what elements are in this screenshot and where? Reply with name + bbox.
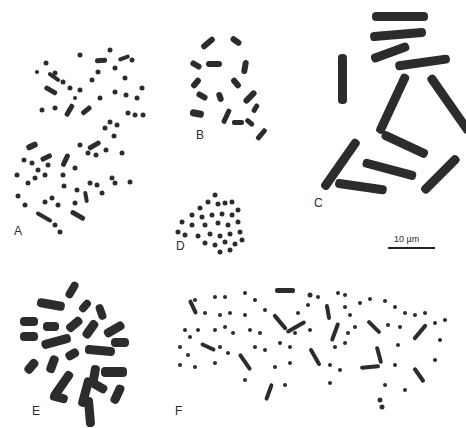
chromosome-spread-e [15, 280, 135, 420]
scale-bar-line [388, 247, 435, 249]
panel-label-e: E [32, 404, 40, 418]
chromosome-spread-f [170, 285, 460, 415]
panel-f: F [170, 285, 460, 415]
panel-e: E [15, 280, 135, 420]
chromosome-spread-a [0, 0, 180, 250]
panel-b: B [190, 30, 280, 140]
panel-label-f: F [175, 404, 182, 418]
panel-d: D [170, 190, 250, 260]
small-chromosomes-a [15, 48, 146, 235]
panel-label-a: A [14, 224, 22, 238]
scale-bar: 10 µm [388, 234, 438, 254]
panel-label-b: B [196, 128, 204, 142]
panel-a: A [0, 0, 180, 250]
scale-bar-label: 10 µm [394, 234, 419, 244]
panel-label-d: D [176, 239, 185, 253]
panel-label-c: C [314, 196, 323, 210]
chromosome-spread-c [300, 0, 466, 215]
panel-c: C [300, 0, 466, 215]
chromosome-spread-b [190, 30, 280, 140]
